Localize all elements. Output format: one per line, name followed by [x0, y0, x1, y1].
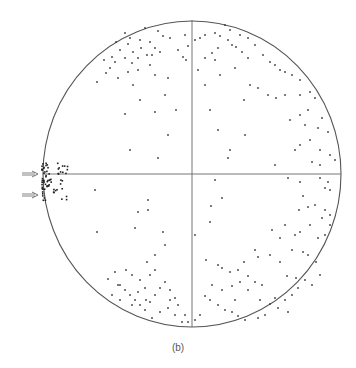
- data-point: [44, 171, 46, 173]
- data-point: [269, 254, 271, 256]
- data-point: [244, 134, 246, 136]
- data-point: [182, 56, 184, 58]
- data-point: [42, 180, 44, 182]
- data-point: [214, 59, 216, 61]
- data-point: [129, 149, 131, 151]
- data-point: [221, 197, 223, 199]
- data-points: [94, 24, 336, 323]
- data-point: [324, 187, 326, 189]
- data-point: [132, 84, 134, 86]
- data-point: [139, 279, 141, 281]
- data-point: [131, 274, 133, 276]
- data-point: [43, 181, 45, 183]
- data-point: [234, 67, 236, 69]
- data-point: [241, 51, 243, 53]
- data-point: [205, 259, 207, 261]
- data-point: [119, 49, 121, 51]
- data-point: [257, 87, 259, 89]
- data-point: [209, 221, 211, 223]
- data-point: [60, 171, 62, 173]
- data-point: [147, 199, 149, 201]
- data-point: [127, 43, 129, 45]
- data-point: [185, 59, 187, 61]
- data-point: [154, 269, 156, 271]
- data-point: [329, 154, 331, 156]
- data-point: [140, 47, 142, 49]
- data-point: [134, 227, 136, 229]
- data-point: [329, 214, 331, 216]
- data-point: [181, 321, 183, 323]
- data-point: [274, 297, 276, 299]
- data-point: [134, 299, 136, 301]
- data-point: [231, 44, 233, 46]
- data-point: [154, 74, 156, 76]
- data-point: [299, 231, 301, 233]
- data-point: [314, 204, 316, 206]
- data-point: [151, 54, 153, 56]
- data-point: [302, 195, 304, 197]
- data-point: [235, 46, 237, 48]
- data-point: [239, 281, 241, 283]
- data-point: [45, 175, 47, 177]
- data-point: [42, 163, 44, 165]
- data-point: [114, 271, 116, 273]
- data-point: [169, 37, 171, 39]
- data-point: [162, 35, 164, 37]
- data-point: [177, 304, 179, 306]
- data-point: [237, 269, 239, 271]
- data-point: [267, 94, 269, 96]
- data-point: [53, 191, 55, 193]
- arrow-icon: [22, 171, 38, 177]
- data-point: [217, 129, 219, 131]
- data-point: [299, 181, 301, 183]
- data-point: [275, 97, 277, 99]
- data-point: [45, 199, 47, 201]
- data-point: [307, 109, 309, 111]
- data-point: [229, 271, 231, 273]
- data-point: [309, 91, 311, 93]
- data-point: [115, 41, 117, 43]
- data-point: [144, 287, 146, 289]
- data-point: [227, 39, 229, 41]
- data-point: [221, 289, 223, 291]
- data-point: [96, 231, 98, 233]
- arrow-icon: [22, 171, 38, 198]
- data-point: [139, 39, 141, 41]
- data-point: [243, 99, 245, 101]
- data-point: [157, 157, 159, 159]
- data-point: [209, 109, 211, 111]
- data-point: [42, 195, 44, 197]
- data-point: [327, 131, 329, 133]
- data-point: [124, 32, 126, 34]
- data-point: [227, 157, 229, 159]
- data-point: [144, 309, 146, 311]
- data-point: [294, 234, 296, 236]
- data-point: [217, 47, 219, 49]
- data-point: [114, 61, 116, 63]
- data-point: [45, 165, 47, 167]
- data-point: [49, 179, 51, 181]
- data-point: [149, 41, 151, 43]
- data-point: [162, 231, 164, 233]
- data-point: [229, 149, 231, 151]
- data-point: [194, 319, 196, 321]
- data-point: [324, 209, 326, 211]
- data-point: [175, 109, 177, 111]
- data-point: [41, 181, 43, 183]
- data-point: [154, 294, 156, 296]
- data-point: [139, 304, 141, 306]
- data-point: [319, 149, 321, 151]
- data-point: [239, 34, 241, 36]
- data-point: [243, 261, 245, 263]
- data-point: [42, 199, 44, 201]
- crosshair-axes: [43, 20, 341, 327]
- data-point: [209, 299, 211, 301]
- data-point: [41, 169, 43, 171]
- data-point: [284, 224, 286, 226]
- data-point: [247, 289, 249, 291]
- data-point: [307, 206, 309, 208]
- data-point: [119, 299, 121, 301]
- data-point: [124, 289, 126, 291]
- data-point: [149, 301, 151, 303]
- data-point: [62, 172, 64, 174]
